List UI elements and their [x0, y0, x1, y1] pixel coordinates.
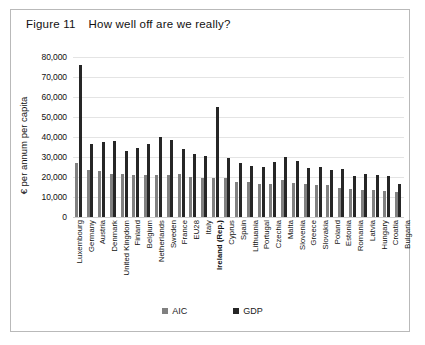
x-axis-label: France [178, 220, 190, 298]
x-axis-label: Cyprus [225, 220, 237, 298]
x-axis-label: Estonia [343, 220, 355, 298]
bar-aic [189, 177, 192, 217]
bar-aic [304, 184, 307, 217]
bar-group [187, 57, 198, 217]
x-axis-label-text: Belgium [145, 220, 154, 248]
bar-gdp [125, 151, 128, 217]
bar-gdp [147, 144, 150, 217]
x-axis-label: Hungary [378, 220, 390, 298]
bar-group [210, 57, 221, 217]
x-axis-label-text: Czechia [274, 220, 283, 248]
y-tick-label: 60,000 [42, 92, 67, 102]
bar-aic [224, 178, 227, 217]
x-axis-label: Austria [96, 220, 108, 298]
bar-gdp [239, 163, 242, 217]
y-axis-title-text: € per annum per capita [19, 96, 30, 194]
x-axis-label-text: Estonia [344, 220, 353, 246]
bar-aic [361, 190, 364, 217]
x-axis-label: Denmark [108, 220, 120, 298]
y-tick-label: 40,000 [42, 132, 67, 142]
bar-group [107, 57, 118, 217]
bar-group [84, 57, 95, 217]
bar-aic [155, 175, 158, 217]
bar-gdp [273, 162, 276, 217]
x-axis-label-text: Ireland (Rep.) [215, 220, 224, 270]
x-axis-label-text: Romania [356, 220, 365, 251]
bar-aic [383, 191, 386, 217]
bar-gdp [353, 176, 356, 217]
x-axis-label: Germany [85, 220, 97, 298]
x-axis-label: Latvia [366, 220, 378, 298]
bar-aic [132, 175, 135, 217]
bar-group [141, 57, 152, 217]
y-tick-label: 20,000 [42, 172, 67, 182]
x-axis-label-text: Italy [203, 220, 212, 234]
bar-gdp [398, 184, 401, 217]
bar-group [153, 57, 164, 217]
x-axis-label: Belgium [143, 220, 155, 298]
bar-group [290, 57, 301, 217]
plot-wrapper: 80,00070,00060,00050,00040,00030,00020,0… [31, 57, 406, 235]
bar-aic [349, 189, 352, 217]
bar-aic [281, 180, 284, 217]
bar-gdp [376, 175, 379, 217]
y-tick-label: 10,000 [42, 192, 67, 202]
figure-number: Figure 11 [26, 18, 76, 30]
bar-gdp [113, 141, 116, 217]
x-axis-label-text: Netherlands [156, 220, 165, 262]
x-axis-label-text: Cyprus [227, 220, 236, 245]
x-axis-label-text: Greece [309, 220, 318, 246]
bar-gdp [296, 161, 299, 217]
plot-area [73, 57, 404, 218]
x-axis-label: United Kingdom [120, 220, 132, 298]
x-axis-label-text: Portugal [262, 220, 271, 249]
x-axis-label: Netherlands [155, 220, 167, 298]
bar-group [164, 57, 175, 217]
bar-group [301, 57, 312, 217]
bar-gdp [307, 168, 310, 217]
bar-gdp [262, 167, 265, 217]
bar-gdp [387, 176, 390, 217]
bar-aic [110, 174, 113, 217]
x-axis-label: Malta [284, 220, 296, 298]
x-axis-label-text: Spain [238, 220, 247, 240]
y-tick-label: 0 [62, 212, 67, 222]
bar-group [370, 57, 381, 217]
x-axis-label: Slovakia [319, 220, 331, 298]
bar-gdp [330, 170, 333, 217]
legend-swatch-aic [162, 308, 168, 314]
bar-group [335, 57, 346, 217]
bar-gdp [204, 156, 207, 217]
x-axis-label-text: United Kingdom [121, 220, 130, 275]
x-axis-label: Croatia [389, 220, 401, 298]
x-axis-label-text: Latvia [367, 220, 376, 241]
x-axis-label: Lithuania [249, 220, 261, 298]
bar-aic [372, 190, 375, 217]
bar-gdp [170, 140, 173, 217]
y-axis-ticks: 80,00070,00060,00050,00040,00030,00020,0… [31, 57, 71, 217]
bar-gdp [319, 167, 322, 217]
figure-title-text: How well off are we really? [89, 18, 231, 30]
legend-item-gdp: GDP [233, 306, 263, 316]
x-axis-label: Italy [202, 220, 214, 298]
x-axis-label-text: France [180, 220, 189, 244]
figure-title: Figure 11How well off are we really? [26, 18, 231, 30]
bar-group [221, 57, 232, 217]
x-axis-label: Luxembourg [73, 220, 85, 298]
bar-aic [395, 192, 398, 217]
bar-aic [201, 178, 204, 217]
bar-gdp [159, 137, 162, 217]
x-axis-label: Czechia [272, 220, 284, 298]
x-axis-label: Slovenia [296, 220, 308, 298]
x-axis-label-text: Hungary [379, 220, 388, 249]
bar-group [392, 57, 403, 217]
bar-group [119, 57, 130, 217]
bar-group [96, 57, 107, 217]
bar-group [324, 57, 335, 217]
legend-swatch-gdp [233, 308, 239, 314]
x-axis-label-text: Slovakia [320, 220, 329, 250]
bar-aic [338, 188, 341, 217]
legend-label-gdp: GDP [243, 306, 263, 316]
bar-aic [258, 184, 261, 217]
bar-aic [315, 185, 318, 217]
